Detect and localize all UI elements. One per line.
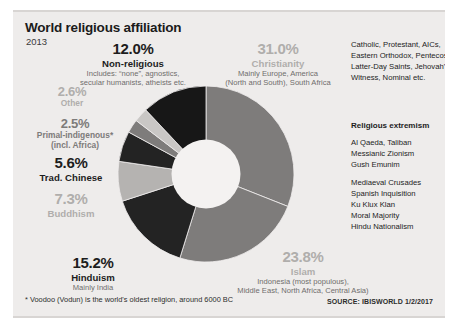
slice-label-hinduism: 15.2% Hinduism Mainly India [39, 254, 147, 292]
slice-name-christianity: Christianity [207, 58, 349, 69]
slice-name-buddhism: Buddhism [25, 208, 117, 219]
extremism-item: Mediaeval Crusades [351, 178, 429, 189]
religious-extremism-list: Religious extremism Al Qaeda, Taliban Me… [351, 120, 429, 233]
denomination-line: Eastern Orthodox, Pentecostal, [351, 51, 445, 62]
infographic-canvas: World religious affiliation 2013 12.0% N… [13, 10, 445, 318]
christian-denominations-list: Catholic, Protestant, AICs, Eastern Orth… [351, 40, 445, 84]
slice-label-trad-chinese: 5.6% Trad. Chinese [21, 154, 121, 183]
slice-pct-primal-indigenous: 2.5% [23, 116, 127, 131]
extremism-item: Spanish Inquisition [351, 189, 429, 200]
slice-name-trad-chinese: Trad. Chinese [21, 172, 121, 183]
extremism-item: Gush Emunim [351, 160, 429, 171]
slice-pct-christianity: 31.0% [207, 40, 349, 58]
slice-label-islam: 23.8% Islam Indonesia (most populous), M… [203, 248, 403, 296]
slice-label-buddhism: 7.3% Buddhism [25, 190, 117, 219]
slice-pct-buddhism: 7.3% [25, 190, 117, 208]
source-attribution: SOURCE: IBISWORLD 1/2/2017 [327, 298, 433, 305]
slice-desc-islam-1: Indonesia (most populous), [203, 277, 403, 286]
slice-desc-primal-indigenous: (incl. Africa) [23, 141, 127, 151]
slice-label-christianity: 31.0% Christianity Mainly Europe, Americ… [207, 40, 349, 88]
list-spacer [351, 171, 429, 178]
religious-extremism-heading: Religious extremism [351, 120, 429, 131]
slice-pct-hinduism: 15.2% [39, 254, 147, 272]
extremism-item: Ku Klux Klan [351, 200, 429, 211]
slice-pct-trad-chinese: 5.6% [21, 154, 121, 172]
slice-desc-hinduism: Mainly India [39, 283, 147, 292]
slice-desc-nonreligious-1: Includes: “none”, agnostics, [59, 69, 207, 78]
slice-pct-islam: 23.8% [203, 248, 403, 266]
denomination-line: Catholic, Protestant, AICs, [351, 40, 445, 51]
extremism-item: Al Qaeda, Taliban [351, 138, 429, 149]
slice-desc-christianity-2: (North and South), South Africa [207, 78, 349, 87]
denomination-line: Witness, Nominal etc. [351, 73, 445, 84]
page-title: World religious affiliation [25, 20, 181, 35]
slice-name-islam: Islam [203, 266, 403, 277]
slice-name-nonreligious: Non-religious [59, 58, 207, 69]
slice-label-other: 2.6% Other [33, 84, 111, 109]
slice-name-other: Other [33, 99, 111, 109]
page-year: 2013 [26, 36, 47, 47]
denomination-line: Latter-Day Saints, Jehovah's [351, 62, 445, 73]
donut-center-hole [172, 140, 241, 209]
slice-label-nonreligious: 12.0% Non-religious Includes: “none”, ag… [59, 40, 207, 88]
infographic-page: World religious affiliation 2013 12.0% N… [0, 0, 458, 334]
extremism-item: Hindu Nationalism [351, 222, 429, 233]
slice-label-primal-indigenous: 2.5% Primal-indigenous* (incl. Africa) [23, 116, 127, 151]
extremism-item: Moral Majority [351, 211, 429, 222]
slice-pct-nonreligious: 12.0% [59, 40, 207, 58]
footnote: * Voodoo (Vodun) is the world's oldest r… [25, 295, 233, 304]
slice-desc-christianity-1: Mainly Europe, America [207, 69, 349, 78]
slice-name-hinduism: Hinduism [39, 272, 147, 283]
slice-pct-other: 2.6% [33, 84, 111, 99]
extremism-item: Messianic Zionism [351, 149, 429, 160]
religious-affiliation-donut-chart [116, 84, 296, 264]
